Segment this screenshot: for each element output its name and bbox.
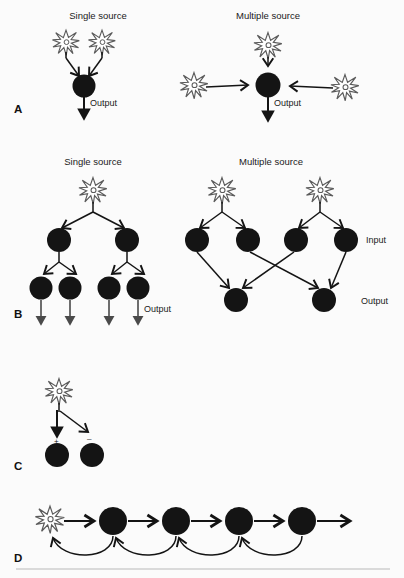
panel-b-right-output-circle-1 [224, 288, 248, 312]
panel-b-right-output-circle-2 [312, 288, 336, 312]
panel-d-chain-circle-1 [99, 507, 127, 535]
panel-b-left-edge-l2-a [44, 262, 59, 274]
panel-d-source-neuron [35, 506, 64, 533]
panel-d-feedback-arrow-1 [53, 536, 113, 555]
panel-b-left-layer2-circle-4 [127, 277, 150, 300]
panel-a-multiple-heading: Multiple source [236, 10, 300, 21]
panel-d-chain-circle-2 [162, 507, 190, 535]
panel-a-left-output-label: Output [90, 98, 118, 108]
panel-b-left-layer1-circle-2 [115, 228, 139, 252]
panel-b-single-heading: Single source [64, 156, 122, 167]
panel-b-left-layer2-circle-3 [98, 277, 121, 300]
panel-a: Single source Output Multiple source [14, 10, 359, 118]
panel-a-left-edge-2 [89, 58, 102, 76]
panel-b-left-layer1-circle-1 [47, 228, 71, 252]
panel-b-right-edge-src2-in3 [299, 212, 320, 228]
panel-b-left-edge-l2-c [112, 262, 127, 274]
panel-b-left-output-label: Output [144, 304, 172, 314]
panel-c-letter: C [14, 460, 22, 472]
panel-c-minus-sign: – [87, 434, 92, 443]
panel-b-right-source-neuron-1 [208, 178, 236, 212]
panel-b-left-edge-l1-b [93, 212, 124, 228]
panel-d: D [14, 506, 350, 564]
panel-b-right-edge-in4-out2 [331, 252, 346, 288]
panel-c: + – C [14, 379, 104, 472]
panel-b-left-layer2-circle-1 [30, 277, 53, 300]
panel-b-left-edge-l2-d [127, 262, 144, 274]
panel-a-single-heading: Single source [69, 10, 127, 21]
panel-d-chain-circle-4 [288, 507, 316, 535]
panel-b-right-edge-in2-out2 [250, 252, 318, 288]
panel-a-right-neuron-right [290, 75, 359, 101]
panel-a-left-neuron-1 [53, 30, 80, 58]
panel-a-right-neuron-top [254, 33, 282, 66]
panel-b-right-source-neuron-2 [306, 178, 334, 212]
panel-b-right-input-circle-3 [284, 228, 308, 252]
panel-b-right-input-circle-4 [334, 228, 358, 252]
panel-b-right-output-label: Output [361, 296, 389, 306]
panel-b-left-edge-l1-a [62, 212, 93, 228]
panel-b-right-input-label: Input [366, 235, 387, 245]
panel-b-right-input-circle-2 [236, 228, 260, 252]
panel-d-feedback-arrow-4 [242, 536, 302, 555]
panel-c-source-neuron [45, 379, 73, 412]
panel-d-feedback-arrow-3 [179, 536, 239, 555]
panel-a-right-neuron-left [180, 73, 248, 99]
panel-a-right-soma [256, 73, 281, 98]
panel-a-right-output-label: Output [274, 98, 302, 108]
panel-a-left-soma [73, 75, 96, 98]
panel-b-right-edge-src1-in2 [222, 212, 245, 228]
panel-d-letter: D [14, 552, 22, 564]
panel-b-right-edge-src1-in1 [200, 212, 222, 228]
panel-b-right-edge-src2-in4 [320, 212, 343, 228]
panel-b-letter: B [14, 308, 22, 320]
panel-b: Single source Output Multiple source [14, 156, 389, 322]
panel-b-right-edge-in3-out1 [243, 252, 294, 288]
panel-c-target-circle-inhibited [80, 443, 104, 467]
panel-d-feedback-arrow-2 [116, 536, 176, 555]
panel-d-chain-circle-3 [225, 507, 253, 535]
panel-b-left-edge-l2-b [59, 262, 76, 274]
panel-b-right-edge-in1-out1 [197, 252, 229, 288]
panel-a-letter: A [14, 103, 22, 115]
panel-b-multiple-heading: Multiple source [239, 156, 303, 167]
panel-a-left-neuron-2 [89, 30, 116, 58]
figure-canvas: Single source Output Multiple source [0, 0, 404, 578]
panel-c-inhibitory-edge [60, 411, 88, 432]
panel-a-left-edge-1 [66, 58, 79, 76]
panel-b-right-input-circle-1 [185, 228, 209, 252]
panel-c-target-circle-excited [45, 443, 69, 467]
panel-b-left-source-neuron [79, 178, 107, 212]
panel-b-left-layer2-circle-2 [59, 277, 82, 300]
